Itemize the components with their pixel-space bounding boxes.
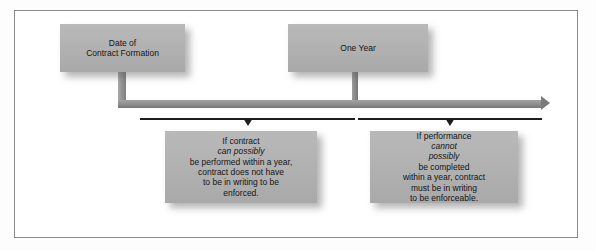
node-date-line2: Contract Formation: [86, 48, 159, 58]
timeline-arrowhead-icon: [541, 96, 550, 110]
node-one-year-label: One Year: [340, 43, 375, 53]
right-note-line1-emphasis: cannot: [403, 141, 485, 151]
right-note-line5: to be enforceable.: [403, 193, 485, 203]
right-note-line2-text: be completed: [403, 162, 485, 172]
connector-stem-one-year: [352, 72, 358, 102]
right-note-line1: If performance cannot: [403, 131, 485, 152]
right-note-line3: within a year, contract: [403, 172, 485, 182]
right-note-line2: possibly be completed: [403, 151, 485, 172]
left-note-line1-emphasis: can possibly: [190, 146, 293, 156]
left-note-line5: enforced.: [190, 188, 293, 198]
left-note-line1-text: If contract: [190, 136, 293, 146]
connector-stem-date-of-contract-formation: [118, 72, 126, 102]
timeline-arrow-bar: [118, 100, 543, 108]
right-note-line1-text: If performance: [403, 131, 485, 141]
diagram-figure: Date of Contract Formation One Year If c…: [0, 0, 596, 251]
bracket-right: [358, 118, 542, 130]
bracket-right-pointer-icon: [445, 118, 455, 126]
node-one-year: One Year: [288, 24, 428, 72]
bracket-left: [140, 118, 355, 130]
left-note-line4: to be in writing to be: [190, 177, 293, 187]
node-date-line1: Date of: [86, 38, 159, 48]
node-date-of-contract-formation: Date of Contract Formation: [60, 24, 185, 72]
note-cannot-possibly-be-completed: If performance cannot possibly be comple…: [370, 131, 518, 203]
left-note-line2: be performed within a year,: [190, 157, 293, 167]
bracket-left-pointer-icon: [243, 118, 253, 126]
left-note-line1: If contract can possibly: [190, 136, 293, 157]
note-can-possibly-be-performed: If contract can possibly be performed wi…: [165, 131, 317, 203]
right-note-line4: must be in writing: [403, 183, 485, 193]
right-note-line2-emphasis: possibly: [403, 151, 485, 161]
left-note-line3: contract does not have: [190, 167, 293, 177]
